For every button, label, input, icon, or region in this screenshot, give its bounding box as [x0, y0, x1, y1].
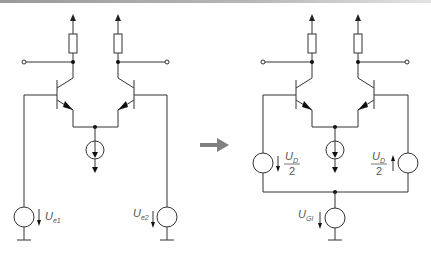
- output-terminal-right: [165, 60, 169, 64]
- output-terminal-right: [405, 60, 409, 64]
- label-ugl: UGl: [298, 208, 313, 222]
- transistor-right-icon: [118, 78, 167, 110]
- right-circuit: UD 2 UD 2 UGl: [253, 14, 418, 240]
- output-terminal-left: [261, 60, 265, 64]
- collector-resistor-right: [354, 34, 362, 53]
- voltage-source-ud-right-icon: [398, 153, 418, 173]
- label-ue2: Ue2: [133, 207, 149, 221]
- voltage-source-ue1-icon: [14, 207, 34, 227]
- svg-text:UD: UD: [372, 150, 385, 164]
- label-ud-half-right: UD 2: [371, 150, 387, 177]
- collector-resistor-left: [308, 34, 316, 53]
- collector-resistor-right: [114, 34, 122, 53]
- circuit-diagram: Ue1 Ue2: [0, 0, 431, 255]
- voltage-source-ud-left-icon: [253, 153, 273, 173]
- voltage-source-ue2-icon: [157, 207, 177, 227]
- supply-arrow-icon: [309, 14, 361, 34]
- supply-arrow-icon: [70, 14, 121, 34]
- svg-text:2: 2: [289, 165, 295, 177]
- transistor-left-icon: [24, 78, 73, 110]
- left-circuit: Ue1 Ue2: [14, 14, 177, 240]
- transistor-left-icon: [263, 78, 312, 110]
- voltage-source-ugl-icon: [325, 208, 345, 228]
- svg-text:2: 2: [376, 165, 382, 177]
- tail-current-source-icon: [326, 127, 344, 173]
- tail-current-source-icon: [86, 127, 104, 173]
- label-ue1: Ue1: [45, 210, 61, 224]
- transform-arrow-icon: [200, 138, 229, 152]
- collector-resistor-left: [69, 34, 77, 53]
- output-terminal-left: [22, 60, 26, 64]
- transistor-right-icon: [358, 78, 408, 110]
- label-ud-half-left: UD 2: [284, 150, 300, 177]
- svg-text:UD: UD: [285, 150, 298, 164]
